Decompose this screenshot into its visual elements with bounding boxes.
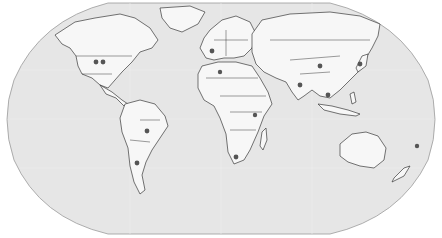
marker-north-africa[interactable] — [218, 70, 222, 74]
marker-us-central[interactable] — [101, 60, 106, 65]
marker-india[interactable] — [298, 83, 303, 88]
marker-argentina[interactable] — [135, 161, 140, 166]
marker-france[interactable] — [210, 49, 215, 54]
marker-southeast-asia[interactable] — [326, 93, 331, 98]
marker-us-west[interactable] — [94, 60, 99, 65]
marker-east-africa[interactable] — [253, 113, 257, 117]
marker-china[interactable] — [318, 64, 323, 69]
world-map — [0, 0, 442, 238]
marker-brazil[interactable] — [145, 129, 150, 134]
marker-japan[interactable] — [358, 62, 363, 67]
marker-south-africa[interactable] — [234, 155, 239, 160]
marker-south-pacific[interactable] — [415, 144, 419, 148]
world-map-svg — [0, 0, 442, 238]
